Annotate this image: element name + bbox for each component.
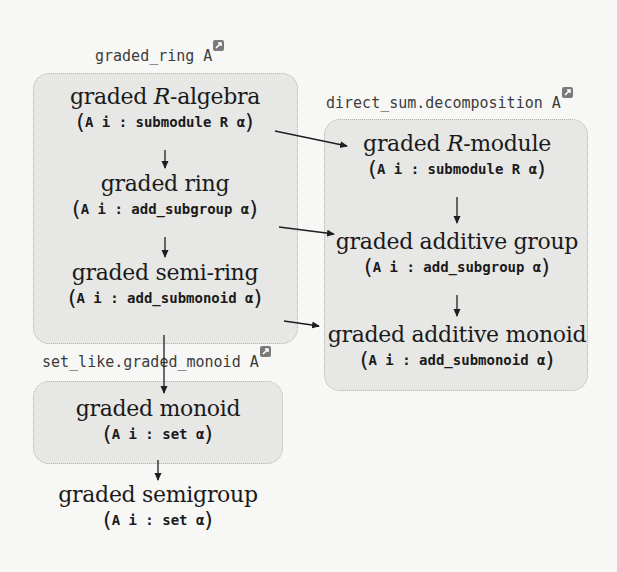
node-type: (A i : submodule R α) [363,157,551,181]
node-graded-r-algebra: graded R-algebra (A i : submodule R α) [70,84,260,134]
node-graded-additive-group: graded additive group (A i : add_subgrou… [336,229,578,279]
node-title: graded additive group [336,229,578,255]
node-type: (A i : add_submonoid α) [328,348,587,372]
node-type: (A i : set α) [58,508,257,532]
node-graded-semi-ring: graded semi-ring (A i : add_submonoid α) [68,260,262,310]
node-title: graded ring [72,171,258,197]
node-graded-additive-monoid: graded additive monoid (A i : add_submon… [328,322,587,372]
group-label-text: direct_sum.decomposition A [326,94,561,112]
node-type: (A i : submodule R α) [70,110,260,134]
node-title: graded R-module [363,131,551,157]
node-title: graded semi-ring [68,260,262,286]
node-type: (A i : add_subgroup α) [72,197,258,221]
node-graded-r-module: graded R-module (A i : submodule R α) [363,131,551,181]
node-type: (A i : add_submonoid α) [68,286,262,310]
node-title: graded semigroup [58,482,257,508]
node-title: graded R-algebra [70,84,260,110]
external-link-icon[interactable] [562,87,573,98]
external-link-icon[interactable] [260,346,271,357]
node-graded-ring: graded ring (A i : add_subgroup α) [72,171,258,221]
node-graded-monoid: graded monoid (A i : set α) [76,396,241,446]
external-link-icon[interactable] [213,40,224,51]
group-label-graded-ring[interactable]: graded_ring A [95,47,224,65]
node-graded-semigroup: graded semigroup (A i : set α) [58,482,257,532]
node-title: graded additive monoid [328,322,587,348]
group-label-text: graded_ring A [95,47,212,65]
group-label-direct-sum-decomposition[interactable]: direct_sum.decomposition A [326,94,573,112]
group-label-text: set_like.graded_monoid A [42,353,259,371]
node-type: (A i : set α) [76,422,241,446]
node-type: (A i : add_subgroup α) [336,255,578,279]
group-label-set-like-graded-monoid[interactable]: set_like.graded_monoid A [42,353,271,371]
node-title: graded monoid [76,396,241,422]
